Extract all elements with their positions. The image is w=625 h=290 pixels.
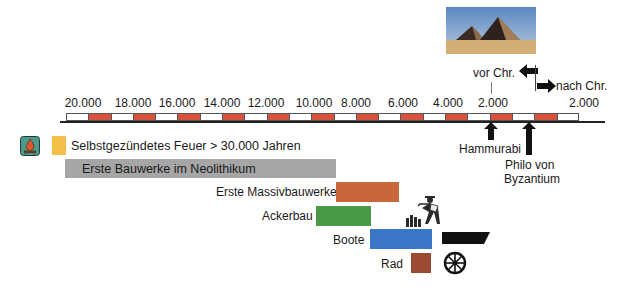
- arrow-right-icon: [536, 79, 556, 93]
- timeline-ruler: [66, 113, 579, 121]
- axis-tick-label: 8.000: [341, 96, 371, 110]
- marker-philo-label-1: Philo von: [505, 158, 554, 172]
- ruler-segment: [356, 113, 378, 121]
- ruler-segment: [467, 113, 489, 121]
- ruler-segment: [512, 113, 534, 121]
- ruler-segment: [222, 113, 244, 121]
- ruler-segment: [155, 113, 177, 121]
- axis-tick-label: 4.000: [433, 96, 463, 110]
- axis-tick-label: 12.000: [248, 96, 285, 110]
- axis-tick-label: 2.000: [569, 96, 599, 110]
- ruler-segment: [423, 113, 445, 121]
- event-wheel-label: Rad: [381, 257, 403, 271]
- wheel-icon: [443, 251, 467, 275]
- event-wheel-bar: [411, 253, 431, 273]
- ruler-segment: [557, 113, 579, 121]
- axis-tick-label: 2.000: [478, 96, 508, 110]
- axis-tick-label: 14.000: [204, 96, 241, 110]
- ruler-segment: [88, 113, 110, 121]
- ruler-segment: [400, 113, 422, 121]
- ruler-segment: [244, 113, 266, 121]
- pyramids-photo: [446, 7, 536, 54]
- axis-tick-label: 10.000: [296, 96, 333, 110]
- boat-icon: [442, 232, 490, 245]
- event-boats-bar: [370, 229, 432, 249]
- ruler-segment: [378, 113, 400, 121]
- event-agriculture-bar: [316, 206, 371, 226]
- marker-hammurabi-label: Hammurabi: [459, 142, 521, 156]
- event-boats-label: Boote: [333, 233, 364, 247]
- ruler-segment: [177, 113, 199, 121]
- event-massive-bar: [336, 182, 399, 202]
- ruler-segment: [490, 113, 512, 121]
- hammurabi-arrow-icon: [484, 122, 498, 140]
- ruler-segment: [133, 113, 155, 121]
- event-massive-label: Erste Massivbauwerke: [216, 185, 337, 199]
- ruler-segment: [66, 113, 88, 121]
- ruler-segment: [200, 113, 222, 121]
- ruler-segment: [289, 113, 311, 121]
- era-ad-label: nach Chr.: [556, 79, 607, 93]
- axis-tick-label: 16.000: [159, 96, 196, 110]
- ruler-segment: [311, 113, 333, 121]
- marker-philo-label-2: Byzantium: [504, 172, 560, 186]
- axis-tick-label: 6.000: [388, 96, 418, 110]
- ruler-segment: [111, 113, 133, 121]
- event-neolithic-label: Erste Bauwerke im Neolithikum: [82, 162, 256, 176]
- arrow-left-icon: [519, 64, 539, 78]
- event-fire-label: Selbstgezündetes Feuer > 30.000 Jahren: [71, 139, 301, 153]
- event-fire-bar: [52, 136, 66, 155]
- ruler-segment: [267, 113, 289, 121]
- ruler-segment: [534, 113, 556, 121]
- philo-arrow-icon: [522, 122, 536, 155]
- axis-tick-label: 18.000: [115, 96, 152, 110]
- event-agriculture-label: Ackerbau: [262, 209, 313, 223]
- era-tick: [491, 82, 492, 94]
- era-bc-label: vor Chr.: [473, 66, 515, 80]
- axis-tick-label: 20.000: [65, 96, 102, 110]
- farmer-icon: [404, 194, 446, 228]
- ruler-segment: [334, 113, 356, 121]
- ruler-segment: [445, 113, 467, 121]
- fire-icon: [20, 136, 40, 156]
